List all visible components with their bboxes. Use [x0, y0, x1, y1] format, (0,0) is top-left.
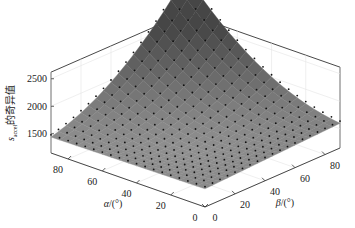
data-point-marker	[192, 105, 194, 107]
data-point-marker	[264, 95, 266, 97]
data-point-marker	[243, 125, 245, 127]
data-point-marker	[135, 86, 137, 88]
data-point-marker	[218, 122, 220, 124]
data-point-marker	[195, 128, 197, 130]
data-point-marker	[188, 40, 190, 42]
data-point-marker	[213, 144, 215, 146]
data-point-marker	[216, 162, 218, 164]
data-point-marker	[228, 135, 230, 137]
data-point-marker	[160, 166, 162, 168]
data-point-marker	[157, 149, 159, 151]
data-point-marker	[288, 88, 290, 90]
data-point-marker	[276, 131, 278, 133]
beta-tick-label: 60	[300, 173, 310, 184]
data-point-marker	[125, 148, 127, 150]
data-point-marker	[73, 116, 75, 118]
data-point-marker	[59, 137, 61, 139]
data-point-marker	[279, 149, 281, 151]
data-point-marker	[58, 128, 60, 130]
data-point-marker	[149, 51, 151, 53]
data-point-marker	[144, 166, 146, 168]
data-point-marker	[109, 148, 111, 150]
data-point-marker	[219, 19, 221, 21]
data-point-marker	[134, 69, 136, 71]
data-point-marker	[227, 126, 229, 128]
data-point-marker	[117, 151, 119, 153]
data-point-marker	[200, 98, 202, 100]
data-point-marker	[205, 148, 207, 150]
data-point-marker	[234, 121, 236, 123]
data-point-marker	[165, 146, 167, 148]
data-point-marker	[241, 103, 243, 105]
data-point-marker	[130, 129, 132, 131]
data-point-marker	[203, 132, 205, 134]
data-point-marker	[211, 176, 213, 178]
data-point-marker	[146, 129, 148, 131]
data-point-marker	[144, 106, 146, 108]
data-point-marker	[202, 174, 204, 176]
data-point-marker	[141, 149, 143, 151]
data-point-marker	[298, 116, 300, 118]
data-point-marker	[161, 171, 163, 173]
data-point-marker	[212, 182, 214, 184]
data-point-marker	[106, 124, 108, 126]
data-point-marker	[217, 167, 219, 169]
data-point-marker	[230, 66, 232, 68]
data-point-marker	[153, 113, 155, 115]
data-point-marker	[261, 139, 263, 141]
data-point-marker	[251, 129, 253, 131]
data-point-marker	[208, 165, 210, 167]
data-point-marker	[127, 160, 129, 162]
data-point-marker	[127, 93, 129, 95]
data-point-marker	[119, 157, 121, 159]
data-point-marker	[237, 145, 239, 147]
data-point-marker	[234, 171, 236, 173]
data-point-marker	[152, 163, 154, 165]
data-point-marker	[186, 174, 188, 176]
data-point-marker	[317, 131, 319, 133]
data-point-marker	[148, 31, 150, 33]
alpha-tick-label: 60	[87, 176, 97, 187]
data-point-marker	[219, 131, 221, 133]
z-tick-label: 2000	[27, 101, 47, 112]
data-point-marker	[254, 150, 256, 152]
data-point-marker	[173, 149, 175, 151]
data-point-marker	[308, 128, 310, 130]
data-point-marker	[137, 113, 139, 115]
data-point-marker	[194, 118, 196, 120]
z-axis-label: saccel的奇异值	[4, 85, 18, 141]
data-point-marker	[239, 157, 241, 159]
data-point-marker	[314, 116, 316, 118]
data-point-marker	[210, 117, 212, 119]
data-point-marker	[206, 154, 208, 156]
data-point-marker	[187, 180, 189, 182]
data-point-marker	[194, 177, 196, 179]
data-point-marker	[224, 164, 226, 166]
data-point-marker	[195, 8, 197, 10]
data-point-marker	[83, 139, 85, 141]
data-point-marker	[217, 111, 219, 113]
data-point-marker	[256, 89, 258, 91]
data-point-marker	[105, 114, 107, 116]
data-point-marker	[211, 8, 213, 10]
data-point-marker	[241, 162, 243, 164]
data-point-marker	[255, 74, 257, 76]
data-point-marker	[205, 58, 207, 60]
data-point-marker	[151, 85, 153, 87]
data-point-marker	[263, 151, 265, 153]
data-point-marker	[257, 102, 259, 104]
data-point-marker	[223, 159, 225, 161]
data-point-marker	[140, 142, 142, 144]
data-point-marker	[172, 40, 174, 42]
data-point-marker	[293, 136, 295, 138]
data-point-marker	[191, 92, 193, 94]
data-point-marker	[262, 146, 264, 148]
data-point-marker	[240, 90, 242, 92]
data-point-marker	[99, 138, 101, 140]
data-point-marker	[95, 95, 97, 97]
data-point-marker	[98, 129, 100, 131]
data-point-marker	[229, 143, 231, 145]
data-point-marker	[212, 29, 214, 31]
data-point-marker	[306, 111, 308, 113]
data-point-marker	[143, 93, 145, 95]
